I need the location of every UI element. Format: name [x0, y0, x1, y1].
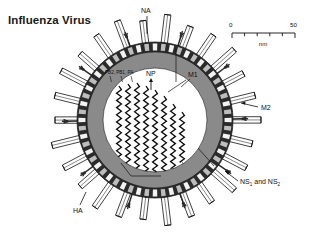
na-spike-head: [224, 66, 227, 69]
scale-min-label: 0: [229, 21, 233, 28]
label-polymerase: PB2, PB1, PA: [105, 70, 134, 75]
envelope-spike-section: [153, 190, 158, 197]
envelope-spike-section: [78, 118, 85, 123]
envelope-spike-section: [153, 43, 158, 50]
na-spike-head: [83, 171, 86, 174]
label-m1: M1: [188, 71, 198, 78]
na-spike-head: [125, 35, 128, 38]
page-title: Influenza Virus: [8, 14, 91, 26]
na-spike-head: [66, 120, 69, 123]
label-m2: M2: [261, 104, 271, 111]
scale-unit-label: nm: [259, 41, 267, 47]
influenza-virus-diagram: Influenza Virus 0 50 nm NA HA M1 M2: [0, 0, 314, 233]
na-spike-head: [82, 68, 85, 71]
label-na: NA: [141, 7, 151, 14]
na-spike-head: [127, 203, 130, 206]
label-np: NP: [146, 70, 156, 77]
na-spike-head: [241, 117, 244, 120]
label-ns-base: NS: [240, 178, 250, 185]
na-spike-head: [182, 202, 185, 205]
label-ns-sub2: 2: [278, 182, 281, 187]
na-spike-head: [180, 34, 183, 37]
scale-max-label: 50: [290, 21, 297, 28]
label-ha: HA: [73, 207, 83, 214]
figure-canvas: Influenza Virus 0 50 nm NA HA M1 M2: [0, 0, 314, 233]
envelope-spike-section: [225, 118, 232, 123]
label-ns-and: and NS: [252, 178, 278, 185]
